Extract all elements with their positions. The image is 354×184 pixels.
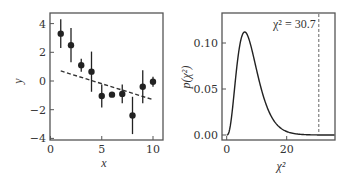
y-tick-label: −4 bbox=[30, 132, 46, 145]
scatter-x-ticks: 0510 bbox=[47, 136, 160, 156]
scatter-y-label: y bbox=[11, 78, 25, 85]
chi2-axes-frame bbox=[222, 13, 335, 140]
x-tick-label: 0 bbox=[223, 143, 230, 156]
data-point bbox=[78, 62, 84, 68]
y-tick-label: −2 bbox=[30, 104, 46, 117]
y-tick-label: 0 bbox=[39, 75, 46, 88]
data-point bbox=[140, 84, 146, 90]
data-point bbox=[68, 42, 74, 48]
data-point bbox=[58, 30, 64, 36]
x-tick-label: 20 bbox=[280, 143, 294, 156]
x-tick-label: 0 bbox=[47, 143, 54, 156]
scatter-x-label: x bbox=[100, 156, 107, 170]
y-tick-label: 0.05 bbox=[194, 83, 219, 96]
scatter-plot-area bbox=[58, 19, 157, 134]
chi2-y-ticks: 0.000.050.10 bbox=[194, 37, 227, 142]
chi2-plot-area bbox=[227, 14, 335, 135]
data-point bbox=[150, 79, 156, 85]
fit-line bbox=[61, 71, 153, 100]
x-tick-label: 10 bbox=[146, 143, 160, 156]
data-point bbox=[119, 91, 125, 97]
chi2-x-ticks: 020 bbox=[223, 136, 294, 156]
scatter-panel: 0510 −4−2024 x y bbox=[11, 13, 163, 170]
data-point bbox=[129, 112, 135, 118]
data-point bbox=[88, 68, 94, 74]
data-point bbox=[109, 91, 115, 97]
y-tick-label: 2 bbox=[39, 46, 46, 59]
figure: 0510 −4−2024 x y 020 0.000.050.10 χ² = 3… bbox=[0, 0, 354, 184]
chi2-panel: 020 0.000.050.10 χ² = 30.7 χ² p(χ²) bbox=[179, 13, 335, 173]
scatter-axes-frame bbox=[50, 13, 163, 140]
chi2-annotation-label: χ² = 30.7 bbox=[272, 17, 316, 31]
y-tick-label: 4 bbox=[39, 18, 46, 31]
chi2-y-label: p(χ²) bbox=[179, 66, 193, 90]
data-point bbox=[99, 93, 105, 99]
chi2-x-label: χ² bbox=[276, 159, 286, 173]
y-tick-label: 0.10 bbox=[194, 37, 219, 50]
x-tick-label: 5 bbox=[98, 143, 105, 156]
y-tick-label: 0.00 bbox=[194, 129, 219, 142]
